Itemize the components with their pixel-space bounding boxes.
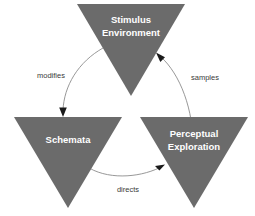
edge-curve-modifies <box>63 48 103 110</box>
node-label-stimulus-environment-line1: Stimulus <box>111 14 151 25</box>
node-label-perceptual-exploration-line1: Perceptual <box>170 128 219 139</box>
node-perceptual-exploration[interactable]: Perceptual Exploration <box>140 117 248 208</box>
edge-curve-directs <box>86 166 159 176</box>
perceptual-cycle-diagram: Stimulus Environment Schemata Perceptual… <box>0 0 255 216</box>
node-schemata[interactable]: Schemata <box>14 117 122 208</box>
node-label-perceptual-exploration-line2: Exploration <box>168 141 220 152</box>
diagram-canvas: Stimulus Environment Schemata Perceptual… <box>0 0 255 216</box>
node-label-schemata-line1: Schemata <box>46 134 92 145</box>
triangle-schemata <box>14 117 122 208</box>
edge-label-directs: directs <box>117 185 139 194</box>
node-group: Stimulus Environment Schemata Perceptual… <box>14 4 248 208</box>
arrow-head-modifies <box>59 108 67 117</box>
node-label-stimulus-environment-line2: Environment <box>102 27 161 38</box>
arrow-head-samples <box>156 53 165 63</box>
edge-label-modifies: modifies <box>37 71 65 80</box>
node-stimulus-environment[interactable]: Stimulus Environment <box>77 4 185 96</box>
edge-label-samples: samples <box>191 73 219 82</box>
